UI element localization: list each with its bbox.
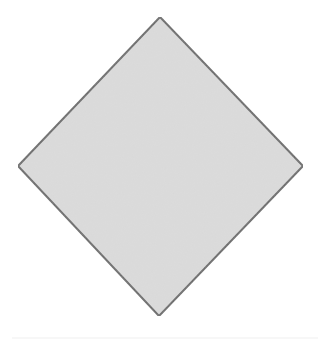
diagram-canvas: [0, 0, 320, 342]
diamond: [18, 17, 303, 316]
diamond-shape: [0, 0, 320, 342]
bottom-divider-line: [12, 337, 318, 339]
